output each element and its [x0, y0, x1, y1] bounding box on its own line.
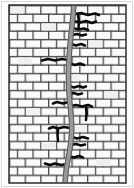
branch-r-10: [72, 137, 88, 139]
masonry-field: [9, 3, 126, 186]
branch-vert-1: [78, 15, 79, 28]
branch-vert-2: [86, 106, 87, 120]
branch-r-5: [72, 44, 86, 46]
branch-r-3: [73, 28, 88, 30]
branch-l-4: [45, 164, 67, 166]
branch-r-6: [70, 64, 84, 66]
branch-l-3: [49, 127, 70, 129]
branch-r-4: [73, 34, 87, 36]
branch-r-9: [71, 105, 93, 107]
branch-l-1: [42, 59, 68, 61]
branch-r-7: [69, 86, 86, 88]
brick-wall-illustration: [0, 0, 134, 188]
cracked-wall-figure: Drawing of a brick wall with a wide crac…: [0, 0, 134, 188]
branch-vert-3: [58, 128, 59, 141]
branch-l-2: [53, 102, 69, 104]
